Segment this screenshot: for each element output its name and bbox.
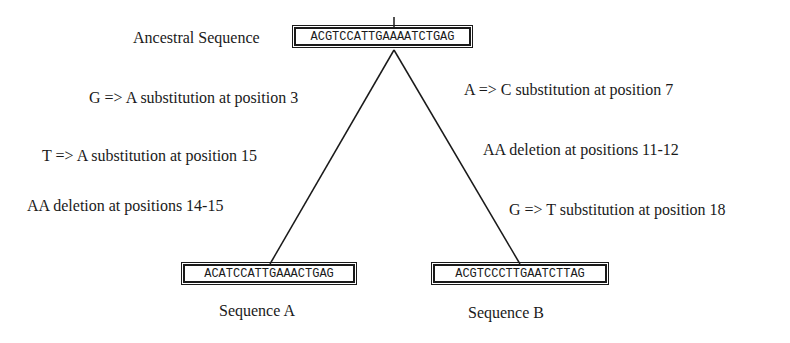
left-mutation-1: G => A substitution at position 3 (89, 90, 298, 106)
right-mutation-3: G => T substitution at position 18 (509, 202, 726, 218)
left-branch-edge (270, 50, 394, 264)
sequence-a-label: Sequence A (219, 303, 295, 319)
sequence-b-box: ACGTCCCTTGAATCTTAG (433, 264, 607, 283)
phylogeny-diagram: Ancestral Sequence ACGTCCATTGAAAATCTGAG … (0, 0, 790, 343)
right-mutation-1: A => C substitution at position 7 (464, 82, 673, 98)
ancestral-sequence-box: ACGTCCATTGAAAATCTGAG (294, 27, 471, 46)
right-mutation-2: AA deletion at positions 11-12 (483, 142, 679, 158)
tree-edges (0, 0, 790, 343)
sequence-b-label: Sequence B (468, 305, 544, 321)
sequence-a-box: ACATCCATTGAAACTGAG (183, 264, 355, 283)
ancestral-sequence-label: Ancestral Sequence (133, 30, 260, 46)
left-mutation-3: AA deletion at positions 14-15 (27, 198, 223, 214)
left-mutation-2: T => A substitution at position 15 (42, 148, 257, 164)
